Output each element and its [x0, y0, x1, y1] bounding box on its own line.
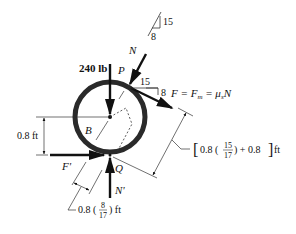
free-body-diagram: 240 lb P N 15 8 15 8 F = Fm = μsN B 0.8 …	[0, 0, 296, 234]
friction-eq-part: F = F	[170, 87, 198, 99]
point-p-label: P	[117, 64, 125, 76]
dim-bottom-ext-2	[89, 170, 102, 194]
dim-right-ext-top	[178, 108, 193, 116]
slope-triangle-p	[146, 88, 158, 95]
radius-line-b	[96, 121, 108, 140]
dim-right-suffix: ) + 0.8	[234, 144, 260, 156]
dim-bottom-ext-1	[72, 162, 86, 185]
dim-right-leader	[172, 140, 190, 149]
normal-force-n-prime-label: N'	[114, 184, 125, 196]
dim-right-num: 15	[224, 141, 232, 150]
slope-top-run-label: 8	[151, 31, 156, 42]
dim-bottom-prefix: 0.8 (	[78, 204, 97, 216]
center-b-label: B	[85, 124, 92, 136]
friction-equation: F = Fm = μsN	[170, 87, 232, 101]
dim-bottom-suffix: ) ft	[109, 204, 121, 216]
dim-bottom-den: 17	[99, 211, 107, 220]
slope-p-run-label: 15	[140, 76, 150, 87]
friction-eq-end: N	[223, 87, 232, 99]
point-q	[109, 154, 112, 157]
slope-top-rise-label: 15	[163, 16, 173, 27]
point-q-label: Q	[115, 162, 123, 174]
dim-bottom-line	[74, 183, 89, 190]
friction-eq-rest: = μ	[202, 87, 221, 99]
dim-right-prefix: 0.8 (	[200, 144, 219, 156]
dim-right-line	[153, 113, 186, 175]
dim-right-unit: ft	[274, 144, 280, 155]
friction-force-f-prime-label: F'	[61, 160, 72, 172]
slope-p-rise-label: 8	[161, 87, 166, 98]
radius-line-p	[119, 91, 124, 99]
normal-force-n-label: N	[128, 44, 137, 56]
dim-bottom-label: 0.8 (	[78, 204, 97, 216]
dim-right-den: 17	[224, 151, 232, 160]
dim-bottom-num: 8	[101, 201, 105, 210]
dim-right-bracket-open: [	[193, 141, 198, 158]
dim-vertical-label: 0.8 ft	[17, 130, 38, 141]
dim-right-bracket-close: ]	[268, 141, 273, 158]
weight-label: 240 lb	[79, 62, 107, 74]
